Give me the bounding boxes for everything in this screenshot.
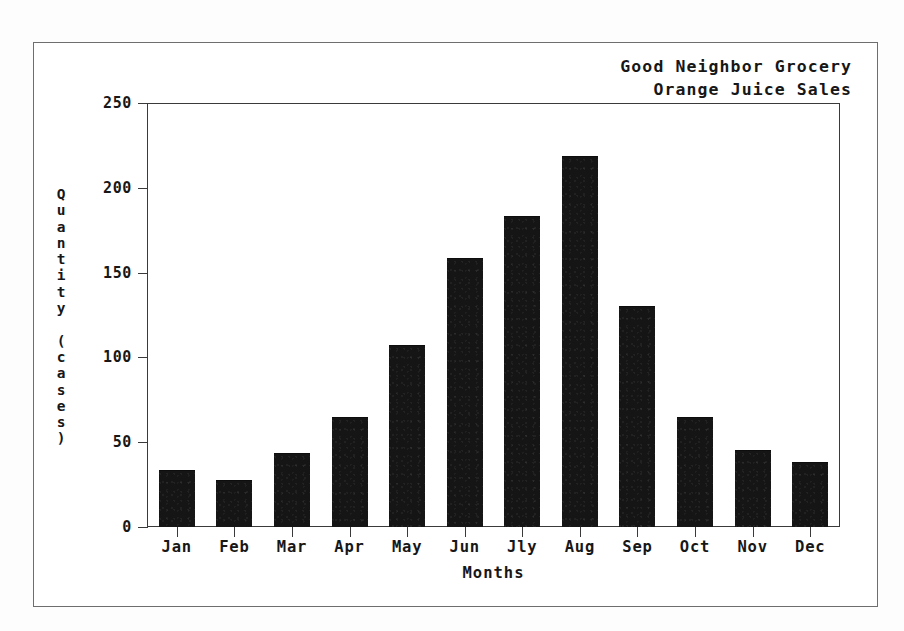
bar-mar (274, 453, 310, 527)
x-tick-may (407, 527, 408, 537)
y-axis-title-char: c (50, 349, 72, 365)
x-tick-apr (350, 527, 351, 537)
x-tick-jly (522, 527, 523, 537)
bar-series (148, 104, 839, 527)
y-axis-title-char: ( (50, 333, 72, 349)
y-axis-title-char: e (50, 398, 72, 414)
x-tick-mar (292, 527, 293, 537)
bar-feb (216, 480, 252, 527)
y-tick-label-150: 150 (76, 264, 132, 282)
bar-oct (677, 417, 713, 527)
y-tick-label-100: 100 (76, 348, 132, 366)
y-axis-title-char: t (50, 284, 72, 300)
x-tick-label-may: May (378, 538, 436, 556)
y-tick-label-50: 50 (76, 433, 132, 451)
x-tick-aug (580, 527, 581, 537)
x-tick-feb (234, 527, 235, 537)
y-axis-title-char (50, 316, 72, 332)
x-tick-label-oct: Oct (666, 538, 724, 556)
chart-title-line-2: Orange Juice Sales (430, 78, 852, 101)
x-tick-nov (753, 527, 754, 537)
bar-jun (447, 258, 483, 527)
y-axis-tick-labels: 050100150200250 (76, 0, 132, 631)
x-tick-label-jun: Jun (436, 538, 494, 556)
bar-jly (504, 216, 540, 527)
bar-sep (619, 306, 655, 527)
x-tick-label-nov: Nov (724, 538, 782, 556)
y-axis-title-char: n (50, 235, 72, 251)
y-tick-label-250: 250 (76, 94, 132, 112)
bar-dec (792, 462, 828, 527)
x-tick-label-jan: Jan (148, 538, 206, 556)
x-tick-label-dec: Dec (781, 538, 839, 556)
y-tick-label-0: 0 (76, 518, 132, 536)
y-axis-title-char: y (50, 300, 72, 316)
chart-title-line-1: Good Neighbor Grocery (430, 55, 852, 78)
y-tick-label-200: 200 (76, 179, 132, 197)
bar-jan (159, 470, 195, 527)
bar-nov (735, 450, 771, 527)
x-tick-jan (177, 527, 178, 537)
x-tick-label-mar: Mar (263, 538, 321, 556)
y-axis-title: Q u a n t i t y ( c a s e s ) (50, 186, 72, 447)
x-tick-label-aug: Aug (551, 538, 609, 556)
page-background: Good Neighbor Grocery Orange Juice Sales… (0, 0, 904, 631)
y-axis-title-char: t (50, 251, 72, 267)
bar-apr (332, 417, 368, 527)
x-tick-label-apr: Apr (321, 538, 379, 556)
y-axis-title-char: a (50, 219, 72, 235)
x-tick-label-jly: Jly (493, 538, 551, 556)
bar-may (389, 345, 425, 527)
y-axis-title-char: i (50, 267, 72, 283)
y-axis-title-char: a (50, 365, 72, 381)
x-tick-jun (465, 527, 466, 537)
y-axis-title-char: s (50, 382, 72, 398)
x-tick-dec (810, 527, 811, 537)
y-tick-0 (138, 527, 148, 528)
y-axis-title-char: Q (50, 186, 72, 202)
y-axis-title-char: u (50, 202, 72, 218)
x-tick-label-sep: Sep (608, 538, 666, 556)
x-tick-label-feb: Feb (205, 538, 263, 556)
y-axis-title-char: s (50, 414, 72, 430)
y-axis-title-char: ) (50, 430, 72, 446)
x-tick-oct (695, 527, 696, 537)
chart-title: Good Neighbor Grocery Orange Juice Sales (430, 55, 852, 101)
x-tick-sep (637, 527, 638, 537)
x-axis-title: Months (147, 564, 840, 582)
bar-aug (562, 156, 598, 527)
